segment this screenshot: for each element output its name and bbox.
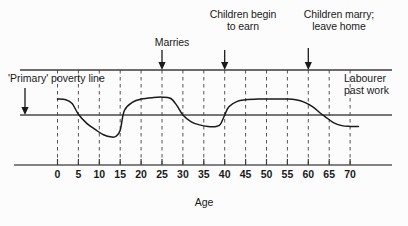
tick-label-age-65: 65 xyxy=(318,168,340,180)
income-curve xyxy=(58,97,359,137)
tick-label-age-70: 70 xyxy=(339,168,361,180)
primary-poverty-line-arrow-head xyxy=(21,107,28,115)
label-labourer-past-work: Labourer past work xyxy=(344,72,389,96)
axis-tick-group xyxy=(58,159,351,165)
axis-line-group xyxy=(14,70,392,165)
marries-arrow-head xyxy=(158,62,165,70)
children-marry-leave-home-arrow-head xyxy=(305,62,312,70)
tick-label-age-10: 10 xyxy=(88,168,110,180)
annotation-children-marry-leave-home: Children marry; leave home xyxy=(290,8,388,32)
tick-label-age-55: 55 xyxy=(276,168,298,180)
poverty-cycle-chart: Marries Children begin to earn Children … xyxy=(0,0,408,226)
annotation-children-begin-to-earn: Children begin to earn xyxy=(196,8,290,32)
annotation-marries: Marries xyxy=(136,36,208,48)
gridline-group xyxy=(58,70,351,165)
tick-label-age-25: 25 xyxy=(151,168,173,180)
tick-label-age-40: 40 xyxy=(214,168,236,180)
children-begin-to-earn-arrow-head xyxy=(221,62,228,70)
tick-label-age-50: 50 xyxy=(256,168,278,180)
tick-label-age-45: 45 xyxy=(235,168,257,180)
tick-label-age-35: 35 xyxy=(193,168,215,180)
tick-label-age-20: 20 xyxy=(130,168,152,180)
income-curve-group xyxy=(58,97,359,137)
tick-label-age-5: 5 xyxy=(67,168,89,180)
chart-canvas xyxy=(0,0,408,226)
tick-label-age-15: 15 xyxy=(109,168,131,180)
x-axis-title: Age xyxy=(0,196,408,208)
tick-label-age-30: 30 xyxy=(172,168,194,180)
tick-label-age-0: 0 xyxy=(47,168,69,180)
tick-label-age-60: 60 xyxy=(297,168,319,180)
label-primary-poverty-line: 'Primary' poverty line xyxy=(8,72,105,84)
